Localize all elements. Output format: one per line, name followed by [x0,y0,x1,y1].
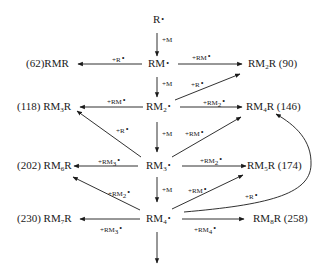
edge-label-RM-RM2R: +RM• [192,53,211,62]
edge-label-RM4-RM6R: +RM2• [108,189,130,200]
node-RM-radical: RM• [148,58,169,69]
product-RM5R-174: RM5R (174) [247,160,302,173]
edge-label-RM3-RM5R: +RM2• [200,156,222,167]
node-RM4-radical: RM4• [146,213,170,226]
edge-label-RM-RM2: +M [162,81,172,88]
arrow-RM4-to-RM5R [172,175,243,209]
reaction-scheme-diagram: R• RM• RM2• RM3• RM4• (62)RMR (118) RM3R… [0,0,325,273]
product-RM3R-118: (118) RM3R [17,101,71,114]
product-RMR-62: (62)RMR [26,58,69,69]
node-RM2-radical: RM2• [146,101,170,114]
edge-label-RM4-RM5R: +RM• [188,186,207,195]
edge-label-RM4-RM8R: +RM4• [194,225,216,236]
edge-label-RM3-RM4: +M [162,187,172,194]
edge-label-RM3-RM3R: +R• [116,126,128,135]
node-RM3-radical: RM3• [146,160,170,173]
edge-label-RM3-RM6R: +RM3• [98,157,120,168]
product-RM7R-230: (230) RM7R [17,213,72,226]
edge-label-RM-RMR: +R• [112,55,124,64]
edge-label-RM2-RM2R: +R• [191,80,203,89]
edge-label-RM2-RM3: +M [162,131,172,138]
edge-label-RM2-RM3R: +RM• [107,97,126,106]
edge-label-R-RM: +M [162,37,172,44]
edge-label-RM3-RM4R: +RM• [185,129,204,138]
arrow-RM2-to-RM2R [175,74,240,100]
product-RM2R-90: RM2R (90) [248,58,297,71]
product-RM8R-258: RM8R (258) [253,213,308,226]
arrow-RM3-to-RM4R [172,117,241,157]
product-RM6R-202: (202) RM6R [17,160,72,173]
edge-label-RM4-RM4R: +R• [245,192,257,201]
edge-label-RM4-RM7R: +RM3• [100,225,122,236]
edge-label-RM2-RM4R: +RM2• [203,98,225,109]
product-RM4R-146: RM4R (146) [246,101,301,114]
arrow-RM3-to-RM3R [77,111,141,157]
node-R-radical: R• [153,14,164,25]
